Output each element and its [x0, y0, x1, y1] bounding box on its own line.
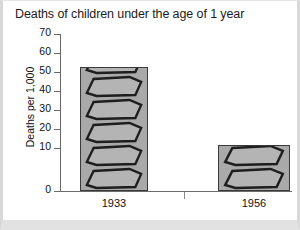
y-tick-mark [54, 53, 60, 54]
coffin-icon [81, 121, 147, 144]
coffin-icon [81, 144, 147, 167]
y-tick-label-10: 10 [11, 140, 51, 152]
x-axis-mid-tick [184, 192, 185, 199]
y-tick-mark [54, 148, 60, 149]
coffin-icon [81, 167, 147, 190]
x-tick-label-1956: 1956 [224, 197, 284, 209]
bar-1956[interactable] [218, 145, 290, 191]
bar-pattern-1956 [219, 145, 289, 190]
y-tick-label-30: 30 [11, 102, 51, 114]
coffin-icon [81, 75, 147, 98]
y-tick-label-40: 40 [11, 83, 51, 95]
y-tick-label-0: 0 [11, 183, 51, 195]
y-tick-label-20: 20 [11, 121, 51, 133]
x-tick-label-1933: 1933 [84, 197, 144, 209]
y-tick-mark [54, 91, 60, 92]
chart-figure: Deaths of children under the age of 1 ye… [0, 0, 300, 230]
y-tick-mark [54, 191, 60, 192]
coffin-icon [81, 98, 147, 121]
y-axis-line [60, 34, 61, 192]
y-tick-label-50: 50 [11, 64, 51, 76]
coffin-icon [219, 167, 289, 190]
chart-title: Deaths of children under the age of 1 ye… [15, 6, 295, 22]
y-tick-mark [54, 129, 60, 130]
y-tick-mark [54, 34, 60, 35]
coffin-icon [219, 145, 289, 167]
coffin-icon [81, 67, 147, 75]
x-axis-line [60, 191, 292, 192]
bar-pattern-1933 [81, 67, 147, 190]
y-tick-label-70: 70 [11, 26, 51, 38]
y-tick-label-60: 60 [11, 45, 51, 57]
y-tick-mark [54, 72, 60, 73]
y-tick-mark [54, 110, 60, 111]
bar-1933[interactable] [80, 67, 148, 191]
